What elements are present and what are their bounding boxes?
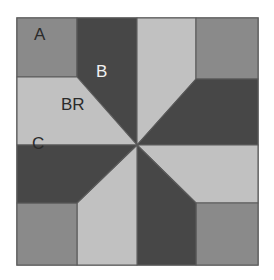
patch-label-c: C: [32, 134, 44, 153]
patch-label-br: BR: [61, 95, 85, 114]
patch-a-top-left: [17, 18, 77, 77]
patch-a-bottom-right: [196, 203, 258, 265]
quilt-block-diagram: ABBRC: [0, 0, 274, 280]
patch-a-bottom-left: [17, 203, 77, 265]
quilt-block-canvas: ABBRC: [0, 0, 274, 280]
patch-label-a: A: [34, 25, 46, 44]
patch-label-b: B: [96, 62, 107, 81]
patch-layer: [17, 18, 258, 265]
patch-a-top-right: [196, 18, 258, 79]
